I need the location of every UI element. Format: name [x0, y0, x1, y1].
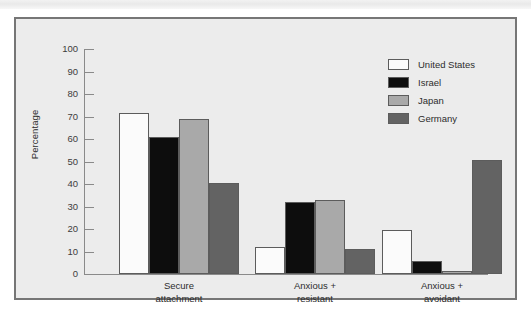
- bar: [285, 202, 315, 274]
- y-axis-tick: 70: [16, 111, 94, 123]
- bar: [255, 247, 285, 274]
- legend-item: Germany: [388, 110, 508, 127]
- y-axis-tick-mark: [85, 94, 94, 95]
- y-axis-tick-label: 10: [67, 246, 78, 258]
- y-axis-tick-mark: [85, 72, 94, 73]
- y-axis-tick: 90: [16, 66, 94, 78]
- y-axis-tick-label: 70: [67, 111, 78, 123]
- y-axis-tick: 50: [16, 156, 94, 168]
- legend-label: Germany: [418, 113, 457, 124]
- chart-legend: United StatesIsraelJapanGermany: [388, 56, 508, 128]
- legend-swatch: [388, 113, 409, 124]
- y-axis-tick-mark: [85, 207, 94, 208]
- bar: [315, 200, 345, 274]
- y-axis-tick: 30: [16, 201, 94, 213]
- y-axis-tick-mark: [85, 117, 94, 118]
- bar: [209, 183, 239, 274]
- y-axis-tick-mark: [85, 162, 94, 163]
- bar: [382, 230, 412, 274]
- legend-label: United States: [418, 59, 475, 70]
- y-axis-tick-label: 0: [73, 268, 78, 280]
- y-axis-tick: 10: [16, 246, 94, 258]
- y-axis-tick-mark: [85, 274, 94, 275]
- bar: [149, 137, 179, 274]
- y-axis-tick: 100: [16, 43, 94, 55]
- scan-top-band: [0, 0, 531, 9]
- bar: [179, 119, 209, 274]
- x-axis-category-label: Anxious + avoidant: [387, 280, 497, 305]
- bar: [412, 261, 442, 275]
- legend-item: United States: [388, 56, 508, 73]
- y-axis-tick: 80: [16, 88, 94, 100]
- legend-item: Japan: [388, 92, 508, 109]
- legend-swatch: [388, 95, 409, 106]
- bar: [472, 160, 502, 274]
- y-axis-tick-label: 60: [67, 133, 78, 145]
- y-axis-tick-label: 100: [62, 43, 78, 55]
- y-axis-tick-label: 20: [67, 223, 78, 235]
- y-axis-tick-label: 40: [67, 178, 78, 190]
- legend-swatch: [388, 59, 409, 70]
- bar: [442, 271, 472, 274]
- y-axis-tick: 60: [16, 133, 94, 145]
- y-axis-tick-mark: [85, 184, 94, 185]
- y-axis-tick: 0: [16, 268, 94, 280]
- y-axis-tick-mark: [85, 49, 94, 50]
- legend-label: Israel: [418, 77, 441, 88]
- y-axis-tick: 40: [16, 178, 94, 190]
- y-axis-tick: 20: [16, 223, 94, 235]
- legend-item: Israel: [388, 74, 508, 91]
- bar: [345, 249, 375, 274]
- y-axis-tick-label: 30: [67, 201, 78, 213]
- bar: [119, 113, 149, 274]
- x-axis-category-label: Anxious + resistant: [260, 280, 370, 305]
- y-axis-tick-label: 50: [67, 156, 78, 168]
- legend-swatch: [388, 77, 409, 88]
- chart-figure: Percentage 1009080706050403020100 Secure…: [14, 17, 517, 300]
- x-axis-category-label: Secure attachment: [124, 280, 234, 305]
- y-axis-tick-label: 90: [67, 66, 78, 78]
- y-axis-tick-mark: [85, 139, 94, 140]
- y-axis-tick-mark: [85, 229, 94, 230]
- y-axis-tick-label: 80: [67, 88, 78, 100]
- x-axis-line: [84, 274, 488, 275]
- y-axis-tick-mark: [85, 252, 94, 253]
- legend-label: Japan: [418, 95, 444, 106]
